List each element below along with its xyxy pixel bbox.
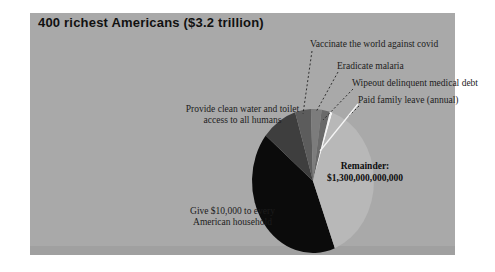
label-clean-water-line2: access to all humans <box>204 115 282 125</box>
label-remainder: Remainder: $1,300,000,000,000 <box>318 161 412 184</box>
label-vaccinate-covid: Vaccinate the world against covid <box>310 39 438 50</box>
label-medical-debt: Wipeout delinquent medical debt <box>352 78 478 89</box>
label-remainder-line1: Remainder: <box>341 161 390 171</box>
label-clean-water-line1: Provide clean water and toilet <box>186 104 299 114</box>
label-remainder-line2: $1,300,000,000,000 <box>327 173 403 183</box>
label-give-10k: Give $10,000 to every American household <box>175 206 290 228</box>
leader-line-malaria <box>316 72 338 112</box>
label-family-leave: Paid family leave (annual) <box>358 95 459 106</box>
label-clean-water: Provide clean water and toilet access to… <box>170 104 315 126</box>
label-give-10k-line2: American household <box>193 217 272 227</box>
label-give-10k-line1: Give $10,000 to every <box>190 206 275 216</box>
label-eradicate-malaria: Eradicate malaria <box>337 61 404 72</box>
